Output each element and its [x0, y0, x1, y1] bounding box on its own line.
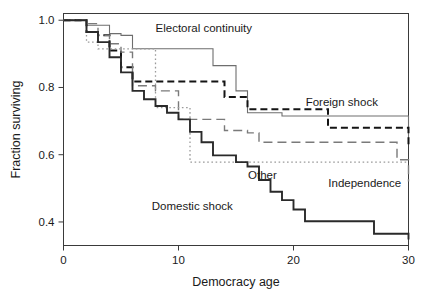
survival-curve-figure: 0102030 0.40.60.81.0 Electoral continuit… [0, 0, 427, 302]
series-curves [64, 20, 409, 239]
y-tick-label: 0.6 [39, 149, 55, 161]
y-tick-label: 1.0 [39, 14, 55, 26]
series-annotations: Electoral continuityForeign shockIndepen… [152, 22, 402, 212]
x-tick-label: 0 [60, 254, 66, 266]
x-tick-label: 10 [172, 254, 185, 266]
series-label-foreign-shock: Foreign shock [306, 96, 378, 108]
x-tick-label: 20 [287, 254, 300, 266]
x-tick-label: 30 [402, 254, 415, 266]
y-axis-title: Fraction surviving [9, 80, 23, 178]
y-tick-label: 0.8 [39, 81, 55, 93]
y-tick-label: 0.4 [39, 216, 56, 228]
series-curve-electoral-continuity [64, 20, 409, 139]
chart-canvas: 0102030 0.40.60.81.0 Electoral continuit… [0, 0, 427, 302]
series-label-other: Other [248, 169, 277, 181]
series-label-independence: Independence [328, 177, 401, 189]
series-label-electoral-continuity: Electoral continuity [156, 22, 253, 34]
y-axis-ticks: 0.40.60.81.0 [39, 14, 64, 228]
series-label-domestic-shock: Domestic shock [152, 200, 233, 212]
x-axis-title: Democracy age [192, 275, 280, 289]
x-axis-ticks: 0102030 [60, 246, 415, 266]
